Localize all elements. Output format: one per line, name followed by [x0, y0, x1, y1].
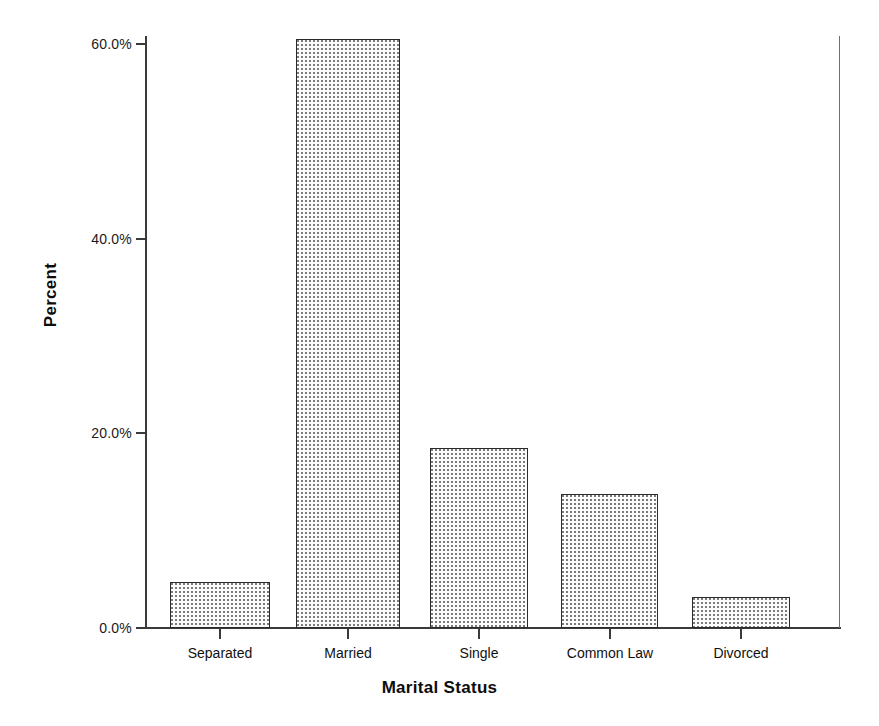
- bar-divorced: [692, 597, 790, 628]
- y-tick-label-20: 20.0%: [40, 425, 132, 441]
- x-tick-mark-married: [347, 629, 349, 639]
- x-tick-label-separated: Separated: [188, 645, 253, 661]
- x-tick-mark-divorced: [740, 629, 742, 639]
- x-tick-label-divorced: Divorced: [713, 645, 768, 661]
- x-tick-label-single: Single: [460, 645, 499, 661]
- y-axis-line: [145, 36, 147, 629]
- x-tick-mark-common-law: [609, 629, 611, 639]
- bar-separated: [170, 582, 270, 628]
- bar-single: [430, 448, 528, 628]
- x-tick-mark-single: [478, 629, 480, 639]
- y-tick-label-60: 60.0%: [40, 36, 132, 52]
- x-tick-mark-separated: [219, 629, 221, 639]
- bar-chart-figure: 60.0% 40.0% 20.0% 0.0% Separated Married…: [0, 0, 879, 726]
- x-axis-title: Marital Status: [0, 678, 879, 698]
- y-axis-title: Percent: [41, 235, 61, 355]
- x-tick-label-common-law: Common Law: [567, 645, 653, 661]
- plot-right-border: [839, 36, 840, 628]
- bar-married: [296, 39, 400, 628]
- bar-common-law: [561, 494, 658, 628]
- x-tick-label-married: Married: [324, 645, 371, 661]
- y-tick-label-0: 0.0%: [40, 620, 132, 636]
